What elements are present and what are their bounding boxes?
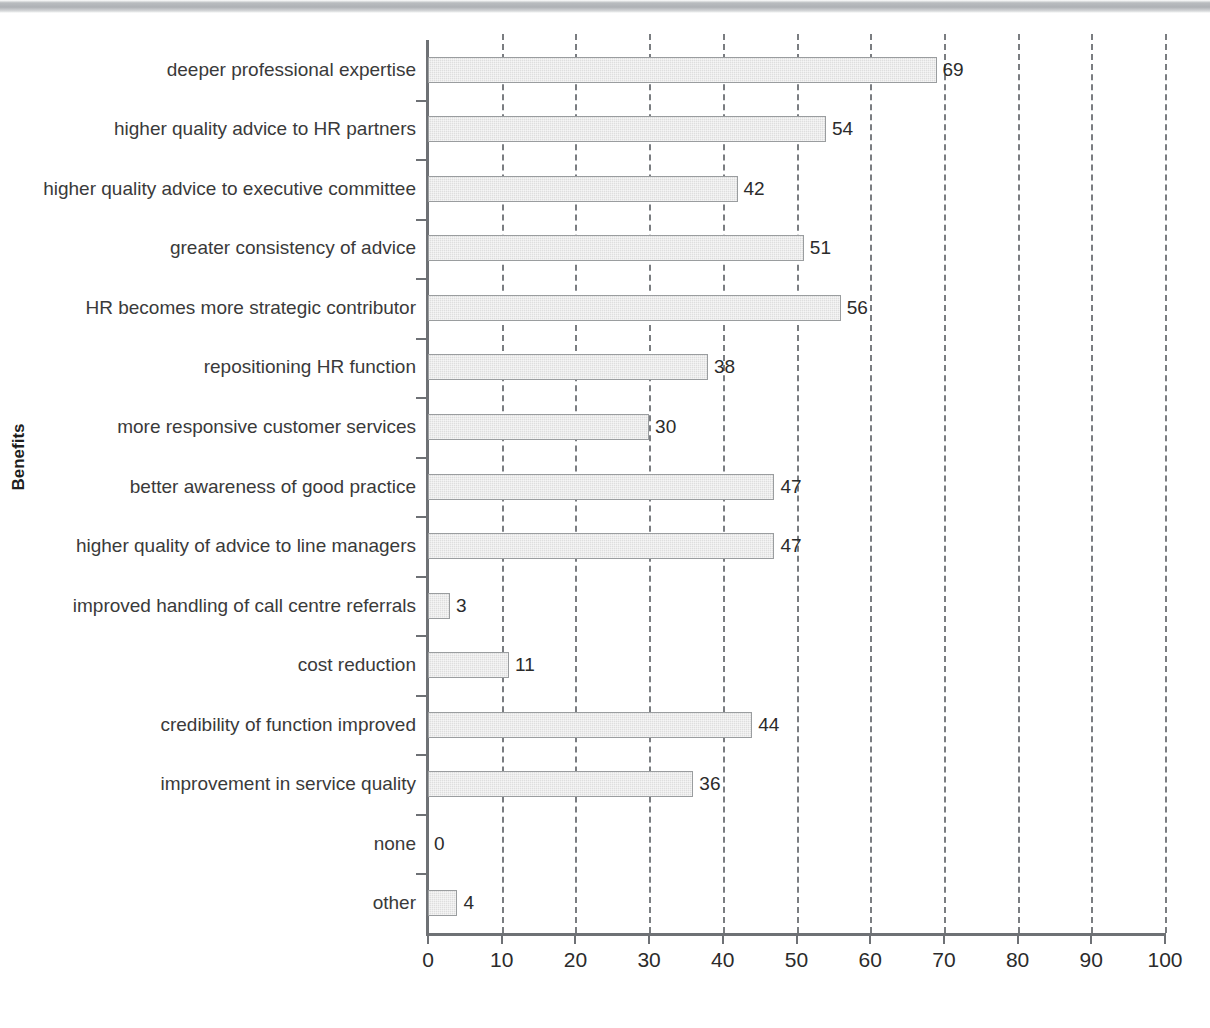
x-tick-10 <box>501 933 503 944</box>
bar[interactable] <box>428 474 774 500</box>
category-label: higher quality of advice to line manager… <box>0 533 416 559</box>
x-tick-30 <box>648 933 650 944</box>
bar-value-label: 47 <box>780 474 801 500</box>
x-tick-100 <box>1164 933 1166 944</box>
bar-value-label: 38 <box>714 354 735 380</box>
bar-value-label: 11 <box>515 652 535 678</box>
x-axis-label-90: 90 <box>1080 948 1103 972</box>
x-tick-60 <box>869 933 871 944</box>
y-tick-11 <box>416 695 427 697</box>
x-axis-label-50: 50 <box>785 948 808 972</box>
y-tick-10 <box>416 635 427 637</box>
category-label: deeper professional expertise <box>0 57 416 83</box>
bar-value-label: 56 <box>847 295 868 321</box>
y-tick-1 <box>416 100 427 102</box>
x-axis-label-0: 0 <box>422 948 434 972</box>
y-tick-8 <box>416 516 427 518</box>
category-label: cost reduction <box>0 652 416 678</box>
category-label: greater consistency of advice <box>0 235 416 261</box>
category-label: better awareness of good practice <box>0 474 416 500</box>
y-tick-5 <box>416 338 427 340</box>
bar[interactable] <box>428 771 693 797</box>
bar-value-label: 0 <box>434 831 445 857</box>
y-tick-4 <box>416 278 427 280</box>
y-tick-13 <box>416 814 427 816</box>
bar[interactable] <box>428 593 450 619</box>
gridline-60 <box>870 34 872 933</box>
horizontal-bar-chart: Benefits 695442515638304747311443604 010… <box>0 0 1210 1028</box>
x-tick-90 <box>1090 933 1092 944</box>
bar-value-label: 69 <box>943 57 964 83</box>
y-tick-7 <box>416 457 427 459</box>
bar-value-label: 30 <box>655 414 676 440</box>
y-tick-3 <box>416 219 427 221</box>
bar[interactable] <box>428 235 804 261</box>
x-axis-label-60: 60 <box>859 948 882 972</box>
x-axis-label-70: 70 <box>932 948 955 972</box>
bar[interactable] <box>428 890 457 916</box>
gridline-70 <box>944 34 946 933</box>
bar-value-label: 47 <box>780 533 801 559</box>
bar-value-label: 4 <box>463 890 474 916</box>
category-label: more responsive customer services <box>0 414 416 440</box>
y-tick-6 <box>416 397 427 399</box>
category-label: improvement in service quality <box>0 771 416 797</box>
x-axis-label-80: 80 <box>1006 948 1029 972</box>
bar-value-label: 36 <box>699 771 720 797</box>
y-tick-2 <box>416 159 427 161</box>
bar-value-label: 44 <box>758 712 779 738</box>
bar[interactable] <box>428 116 826 142</box>
bar[interactable] <box>428 354 708 380</box>
gridline-100 <box>1165 34 1167 933</box>
category-label: higher quality advice to HR partners <box>0 116 416 142</box>
bar[interactable] <box>428 712 752 738</box>
y-tick-14 <box>416 873 427 875</box>
bar[interactable] <box>428 533 774 559</box>
bar[interactable] <box>428 295 841 321</box>
y-tick-12 <box>416 754 427 756</box>
gridline-90 <box>1091 34 1093 933</box>
bar-value-label: 3 <box>456 593 467 619</box>
x-axis-label-100: 100 <box>1147 948 1182 972</box>
x-tick-20 <box>574 933 576 944</box>
x-tick-80 <box>1017 933 1019 944</box>
category-label: higher quality advice to executive commi… <box>0 176 416 202</box>
x-axis-label-20: 20 <box>564 948 587 972</box>
bar-value-label: 42 <box>744 176 765 202</box>
x-tick-40 <box>722 933 724 944</box>
category-label: repositioning HR function <box>0 354 416 380</box>
category-label: HR becomes more strategic contributor <box>0 295 416 321</box>
x-tick-50 <box>796 933 798 944</box>
x-tick-70 <box>943 933 945 944</box>
category-label: none <box>0 831 416 857</box>
bar[interactable] <box>428 176 738 202</box>
x-axis-label-10: 10 <box>490 948 513 972</box>
bar[interactable] <box>428 414 649 440</box>
bar-value-label: 51 <box>810 235 831 261</box>
category-label: other <box>0 890 416 916</box>
x-axis-label-40: 40 <box>711 948 734 972</box>
bar[interactable] <box>428 652 509 678</box>
plot-area: 695442515638304747311443604 010203040506… <box>428 40 1165 933</box>
y-tick-9 <box>416 576 427 578</box>
x-axis-label-30: 30 <box>637 948 660 972</box>
category-label: improved handling of call centre referra… <box>0 593 416 619</box>
category-label: credibility of function improved <box>0 712 416 738</box>
bar[interactable] <box>428 57 937 83</box>
bar-value-label: 54 <box>832 116 853 142</box>
gridline-80 <box>1018 34 1020 933</box>
x-tick-0 <box>427 933 429 944</box>
